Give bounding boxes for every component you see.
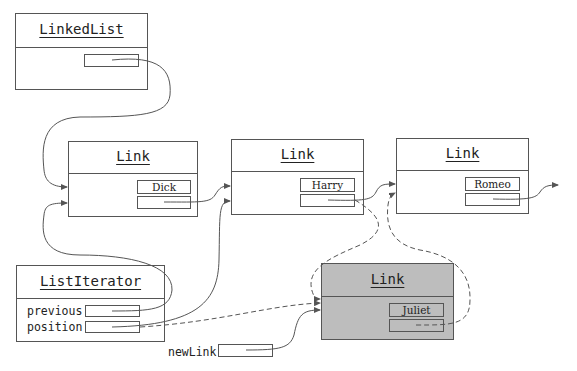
link-data-field: Dick xyxy=(137,180,191,194)
link-node-title: Link xyxy=(69,142,197,174)
newlink-field xyxy=(218,344,273,357)
position-label: position xyxy=(27,320,82,334)
previous-label: previous xyxy=(27,304,82,318)
linkedlist-title: LinkedList xyxy=(16,14,147,48)
previous-field xyxy=(85,305,140,317)
link-node-title: Link xyxy=(232,140,363,172)
link-next-field xyxy=(300,194,355,207)
link-data-field: Harry xyxy=(300,178,355,192)
link-node-title: Link xyxy=(322,264,453,297)
newlink-label: newLink xyxy=(168,345,216,359)
linkedlist-box: LinkedList xyxy=(15,13,148,90)
link-data-field: Juliet xyxy=(389,303,444,317)
link-node-title: Link xyxy=(397,139,528,171)
link-next-field xyxy=(137,196,191,209)
link-next-field xyxy=(389,319,444,332)
link-data-field: Romeo xyxy=(465,177,520,191)
link-next-field xyxy=(465,193,520,206)
listiterator-title: ListIterator xyxy=(17,266,164,299)
linkedlist-first-field xyxy=(84,54,139,67)
position-field xyxy=(85,321,140,333)
edge-position-to-juliet-dashed xyxy=(140,303,320,327)
